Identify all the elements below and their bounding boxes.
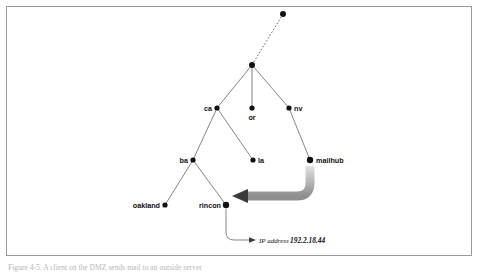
node-label-la: la <box>258 156 265 165</box>
ip-annotation-leader <box>226 209 250 240</box>
node-label-mailhub: mailhub <box>316 156 344 165</box>
edge-root-hub <box>252 14 283 65</box>
figure-caption: Figure 4-5. A client on the DMZ sends ma… <box>8 263 468 272</box>
node-mailhub[interactable] <box>307 157 313 163</box>
node-rincon[interactable] <box>223 202 229 208</box>
node-nv[interactable] <box>286 105 291 110</box>
node-label-ca: ca <box>204 104 213 113</box>
node-la[interactable] <box>250 157 255 162</box>
edge-hub-nv <box>252 65 289 108</box>
node-ba[interactable] <box>190 157 195 162</box>
node-label-rincon: rincon <box>199 201 221 210</box>
ip-annotation: IP address 192.2.18.44 <box>226 209 325 245</box>
node-ca[interactable] <box>214 105 219 110</box>
node-label-nv: nv <box>294 104 302 113</box>
node-label-oakland: oakland <box>133 201 160 210</box>
node-oakland[interactable] <box>162 202 167 207</box>
ip-annotation-value: 192.2.18.44 <box>290 236 325 245</box>
node-or[interactable] <box>249 105 254 110</box>
edge-ca-ba <box>193 108 217 160</box>
node-label-ba: ba <box>180 156 189 165</box>
ip-annotation-prefix: IP address <box>258 237 289 245</box>
node-hub[interactable] <box>249 62 255 68</box>
edge-nv-mailhub <box>289 108 310 160</box>
edge-ba-rincon <box>193 160 226 205</box>
ip-annotation-arrowhead <box>249 237 256 242</box>
figure-page: ca or nv ba la mailhub oakland rincon IP… <box>0 0 479 272</box>
flow-arrow-head <box>232 189 248 203</box>
network-tree-diagram: ca or nv ba la mailhub oakland rincon IP… <box>0 0 479 272</box>
node-root[interactable] <box>280 11 286 17</box>
node-label-or: or <box>248 113 255 122</box>
edge-ba-oakland <box>165 160 193 205</box>
tree-nodes <box>162 11 313 208</box>
edge-hub-ca <box>217 65 252 108</box>
mail-flow-arrow <box>232 166 310 203</box>
